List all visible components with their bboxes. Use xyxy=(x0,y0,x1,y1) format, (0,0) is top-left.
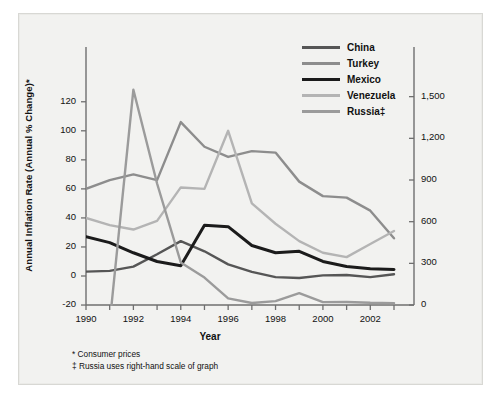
legend-label: China xyxy=(347,42,375,53)
y-tick-label-left: 60 xyxy=(44,182,76,193)
legend-swatch-icon xyxy=(302,78,340,82)
y-tick-label-left: 100 xyxy=(44,124,76,135)
y-tick-label-right: 600 xyxy=(421,215,461,226)
y-tick-label-left: 120 xyxy=(44,95,76,106)
y-tick-label-left: 40 xyxy=(44,211,76,222)
legend-item-venezuela[interactable]: Venezuela xyxy=(302,90,395,101)
legend-label: Turkey xyxy=(347,58,379,69)
series-line-venezuela xyxy=(86,131,394,257)
y-tick-label-left: 80 xyxy=(44,153,76,164)
x-tick-label: 1996 xyxy=(208,313,248,324)
series-line-mexico xyxy=(86,225,394,269)
y-tick-label-left: -20 xyxy=(44,298,76,309)
y-axis-label: Annual Inflation Rate (Annual % Change)* xyxy=(23,76,34,276)
y-tick-label-right: 1,500 xyxy=(421,90,461,101)
legend-label: Mexico xyxy=(347,74,381,85)
x-tick-label: 1998 xyxy=(256,313,296,324)
x-tick-label: 1992 xyxy=(113,313,153,324)
x-tick-label: 1994 xyxy=(161,313,201,324)
y-tick-label-right: 900 xyxy=(421,173,461,184)
legend-item-russia[interactable]: Russia‡ xyxy=(302,106,385,117)
legend-swatch-icon xyxy=(302,94,340,97)
footnote-1: * Consumer prices xyxy=(72,349,140,359)
y-tick-label-left: 0 xyxy=(44,269,76,280)
chart-figure: Annual Inflation Rate (Annual % Change)*… xyxy=(0,0,499,406)
chart-canvas xyxy=(0,0,499,406)
x-tick-label: 2000 xyxy=(303,313,343,324)
legend-item-china[interactable]: China xyxy=(302,42,375,53)
legend-swatch-icon xyxy=(302,62,340,65)
series-line-russia xyxy=(110,90,394,323)
legend-label: Venezuela xyxy=(347,90,395,101)
x-axis-label: Year xyxy=(0,331,420,342)
y-tick-label-right: 1,200 xyxy=(421,131,461,142)
legend-item-turkey[interactable]: Turkey xyxy=(302,58,379,69)
legend-label: Russia‡ xyxy=(347,106,385,117)
series-line-china xyxy=(86,241,394,278)
x-tick-label: 1990 xyxy=(66,313,106,324)
footnote-2: ‡ Russia uses right-hand scale of graph xyxy=(72,361,218,371)
legend-swatch-icon xyxy=(302,110,340,113)
y-tick-label-left: 20 xyxy=(44,240,76,251)
legend-swatch-icon xyxy=(302,46,340,49)
series-line-turkey xyxy=(86,122,394,238)
x-tick-label: 2002 xyxy=(350,313,390,324)
y-tick-label-right: 0 xyxy=(421,298,461,309)
y-tick-label-right: 300 xyxy=(421,256,461,267)
series-lines xyxy=(86,90,394,323)
legend-item-mexico[interactable]: Mexico xyxy=(302,74,381,85)
